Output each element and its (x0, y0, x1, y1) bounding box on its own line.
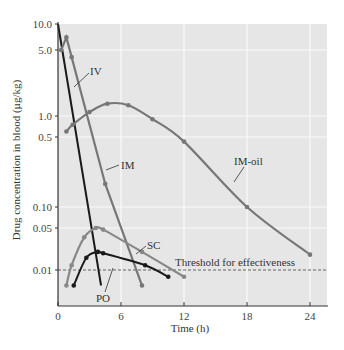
data-point (96, 250, 101, 255)
data-point (94, 226, 99, 231)
y-tick-label: 5.0 (38, 44, 52, 56)
data-point (105, 101, 110, 106)
y-tick-label: 0.10 (33, 201, 53, 213)
y-tick-label: 1.0 (38, 110, 52, 122)
y-tick-label: 0.05 (33, 222, 53, 234)
data-point (143, 263, 148, 268)
data-point (101, 251, 106, 256)
series-label-im-oil: IM-oil (234, 155, 263, 167)
data-point (82, 235, 87, 240)
data-point (69, 263, 74, 268)
data-point (84, 255, 89, 260)
series-label-sc: SC (147, 239, 160, 251)
data-point (182, 139, 187, 144)
y-axis-ticks: 10.05.01.00.50.100.050.01 (33, 18, 58, 276)
data-point (245, 205, 250, 210)
data-point (64, 283, 69, 288)
y-tick-label: 0.01 (33, 264, 52, 276)
data-point (150, 117, 155, 122)
threshold-label: Threshold for effectiveness (175, 256, 295, 268)
data-point (70, 122, 75, 127)
series-label-iv: IV (90, 65, 102, 77)
x-tick-label: 18 (242, 310, 254, 322)
data-point (64, 129, 69, 134)
data-point (182, 274, 187, 279)
x-tick-label: 0 (55, 310, 61, 322)
x-tick-label: 6 (118, 310, 124, 322)
data-point (126, 103, 131, 108)
data-point (69, 55, 74, 60)
data-point (103, 182, 108, 187)
data-point (59, 48, 64, 53)
y-axis-title: Drug concentration in blood (µg/kg) (10, 80, 23, 241)
series-label-im: IM (121, 159, 135, 171)
data-point (308, 252, 313, 257)
data-point (101, 227, 106, 232)
data-point (166, 274, 171, 279)
y-tick-label: 10.0 (33, 18, 53, 30)
series-label-po: PO (96, 292, 110, 304)
data-point (87, 110, 92, 115)
data-point (64, 35, 69, 40)
data-point (140, 283, 145, 288)
data-point (71, 283, 76, 288)
y-tick-label: 0.5 (38, 131, 52, 143)
x-tick-label: 12 (179, 310, 190, 322)
x-axis-title: Time (h) (171, 322, 210, 335)
pharmacokinetics-chart: Threshold for effectiveness IV IM IM-oil… (0, 0, 344, 350)
x-tick-label: 24 (305, 310, 317, 322)
